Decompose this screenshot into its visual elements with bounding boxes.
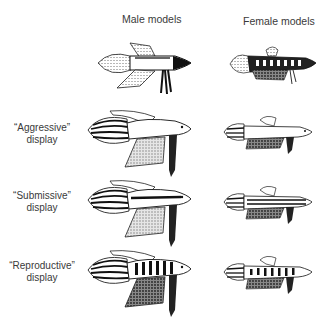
male-aggressive-fish — [85, 105, 195, 180]
row-label-aggressive: “Aggressive” display — [2, 122, 82, 146]
male-reproductive-fish — [85, 245, 195, 320]
female-normal-fish — [228, 42, 318, 87]
male-submissive-fish — [85, 175, 195, 250]
column-header-female: Female models — [243, 15, 315, 27]
row-label-submissive: “Submissive” display — [2, 190, 82, 214]
female-aggressive-fish — [222, 110, 317, 160]
row-label-reproductive: “Reproductive” display — [2, 260, 82, 284]
column-header-male: Male models — [122, 13, 182, 25]
female-submissive-fish — [222, 180, 317, 230]
female-reproductive-fish — [222, 250, 317, 300]
male-normal-fish — [95, 38, 195, 98]
